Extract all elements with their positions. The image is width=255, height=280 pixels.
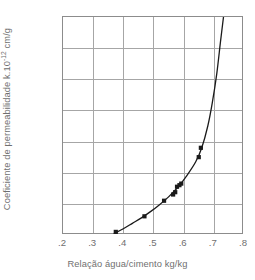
plot-area [62,16,243,234]
x-tick-label: .3 [80,238,104,248]
x-tick-label: .5 [141,238,165,248]
y-axis-title-suffix: cm/g [2,28,12,51]
data-point [199,146,203,150]
x-tick-label: .2 [50,238,74,248]
data-layer [63,17,244,235]
y-axis-title: Coeficiente de permeabilidade k.10-12 cm… [0,6,14,232]
data-point [142,214,146,218]
data-point-markers [114,146,203,234]
x-tick-label: .6 [171,238,195,248]
x-tick-label: .7 [201,238,225,248]
data-point [114,230,118,234]
series-svg [63,17,244,235]
fit-curve [114,17,223,233]
data-point [173,190,177,194]
data-point [179,182,183,186]
x-tick-label: .8 [231,238,255,248]
y-axis-title-prefix: Coeficiente de permeabilidade k.10 [2,61,12,210]
data-point [197,155,201,159]
x-tick-label: .4 [110,238,134,248]
permeability-chart-figure: Coeficiente de permeabilidade k.10-12 cm… [0,0,255,280]
x-axis-title: Relação água/cimento kg/kg [0,259,255,269]
data-point [162,199,166,203]
y-axis-title-exponent: -12 [0,51,7,61]
